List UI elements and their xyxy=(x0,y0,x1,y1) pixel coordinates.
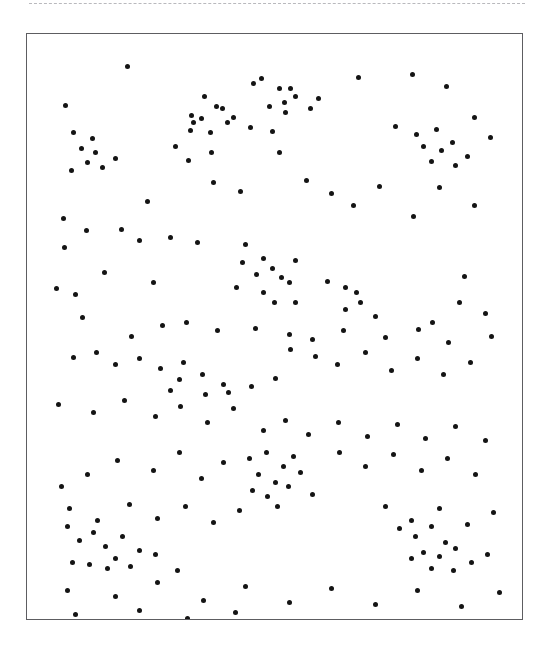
scatter-dot xyxy=(151,280,156,285)
scatter-dot xyxy=(215,328,220,333)
scatter-dot xyxy=(293,300,298,305)
scatter-dot xyxy=(248,125,253,130)
scatter-dot xyxy=(115,458,120,463)
scatter-dot xyxy=(483,311,488,316)
scatter-dot xyxy=(273,480,278,485)
scatter-dot xyxy=(410,72,415,77)
scatter-dot xyxy=(221,460,226,465)
scatter-dot xyxy=(249,384,254,389)
scatter-dot xyxy=(237,508,242,513)
scatter-dot xyxy=(231,406,236,411)
scatter-dot xyxy=(73,292,78,297)
scatter-dot xyxy=(62,245,67,250)
scatter-dot xyxy=(473,472,478,477)
scatter-dot xyxy=(488,135,493,140)
scatter-dot xyxy=(283,418,288,423)
scatter-dot xyxy=(91,410,96,415)
scatter-dot xyxy=(65,588,70,593)
scatter-dot xyxy=(261,428,266,433)
scatter-dot xyxy=(457,300,462,305)
scatter-dot xyxy=(293,94,298,99)
scatter-dot xyxy=(261,256,266,261)
scatter-dot xyxy=(65,524,70,529)
scatter-dot xyxy=(308,106,313,111)
scatter-dot xyxy=(214,104,219,109)
scatter-dot xyxy=(73,612,78,617)
scatter-dot xyxy=(472,115,477,120)
scatter-dot xyxy=(71,355,76,360)
scatter-dot xyxy=(211,180,216,185)
scatter-dot xyxy=(251,81,256,86)
scatter-dot xyxy=(365,434,370,439)
scatter-dot xyxy=(414,132,419,137)
scatter-dot xyxy=(439,148,444,153)
scatter-dot xyxy=(168,235,173,240)
scatter-dot xyxy=(453,163,458,168)
scatter-dot xyxy=(264,450,269,455)
scatter-dot xyxy=(199,476,204,481)
scatter-dot xyxy=(90,136,95,141)
scatter-dot xyxy=(277,86,282,91)
scatter-dot xyxy=(160,323,165,328)
scatter-dot xyxy=(127,502,132,507)
scatter-dot xyxy=(177,450,182,455)
scatter-dot xyxy=(102,270,107,275)
scatter-dot xyxy=(453,424,458,429)
scatter-dot xyxy=(363,350,368,355)
scatter-dot xyxy=(220,106,225,111)
scatter-dot xyxy=(291,454,296,459)
scatter-dot xyxy=(195,240,200,245)
scatter-dot xyxy=(91,530,96,535)
scatter-dot xyxy=(95,518,100,523)
scatter-dot xyxy=(250,488,255,493)
scatter-dot xyxy=(443,540,448,545)
scatter-dot xyxy=(122,398,127,403)
scatter-dot xyxy=(337,450,342,455)
scatter-dot xyxy=(283,110,288,115)
scatter-dot xyxy=(282,100,287,105)
scatter-dot xyxy=(429,566,434,571)
scatter-dot xyxy=(393,124,398,129)
scatter-dot xyxy=(173,144,178,149)
scatter-dot xyxy=(373,602,378,607)
scatter-dot xyxy=(329,191,334,196)
scatter-dot xyxy=(413,534,418,539)
scatter-dot xyxy=(100,165,105,170)
scatter-dot xyxy=(335,362,340,367)
scatter-dot xyxy=(85,160,90,165)
scatter-dot xyxy=(103,544,108,549)
scatter-dot xyxy=(437,554,442,559)
scatter-dot xyxy=(343,285,348,290)
scatter-dot xyxy=(184,320,189,325)
scatter-dot xyxy=(233,610,238,615)
scatter-dot xyxy=(85,472,90,477)
scatter-dot xyxy=(453,546,458,551)
scatter-dot xyxy=(270,266,275,271)
scatter-dot xyxy=(80,315,85,320)
scatter-dot xyxy=(177,377,182,382)
scatter-dot xyxy=(205,420,210,425)
scatter-dot xyxy=(415,588,420,593)
scatter-dot xyxy=(129,334,134,339)
scatter-dot xyxy=(287,332,292,337)
scatter-dot xyxy=(298,470,303,475)
scatter-dot xyxy=(287,280,292,285)
scatter-dot xyxy=(423,436,428,441)
scatter-dot xyxy=(238,189,243,194)
scatter-dot xyxy=(63,103,68,108)
scatter-dot xyxy=(383,335,388,340)
scatter-dot xyxy=(71,130,76,135)
scatter-dot xyxy=(209,150,214,155)
scatter-dot xyxy=(137,548,142,553)
scatter-dot xyxy=(234,285,239,290)
scatter-dot xyxy=(113,594,118,599)
scatter-dot xyxy=(203,392,208,397)
scatter-dot xyxy=(415,356,420,361)
scatter-dot xyxy=(79,146,84,151)
scatter-dot xyxy=(225,120,230,125)
scatter-dot xyxy=(411,214,416,219)
scatter-dot xyxy=(59,484,64,489)
scatter-dot xyxy=(329,586,334,591)
scatter-dot xyxy=(397,526,402,531)
scatter-dot xyxy=(67,506,72,511)
